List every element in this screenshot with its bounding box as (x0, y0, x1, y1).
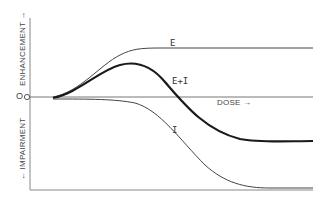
curve-e-plus-i-label: E+I (172, 76, 188, 86)
curve-e (53, 48, 313, 97)
impairment-label: ← IMPAIRMENT (18, 118, 27, 180)
curve-i (53, 99, 313, 188)
origin-marker (24, 94, 29, 99)
dose-response-diagram (0, 0, 328, 202)
enhancement-label: ENHANCEMENT → (18, 12, 27, 86)
curve-i-label: I (172, 125, 177, 135)
dose-label: DOSE → (217, 98, 251, 107)
origin-label: O (16, 91, 23, 101)
curve-e-label: E (170, 38, 175, 48)
